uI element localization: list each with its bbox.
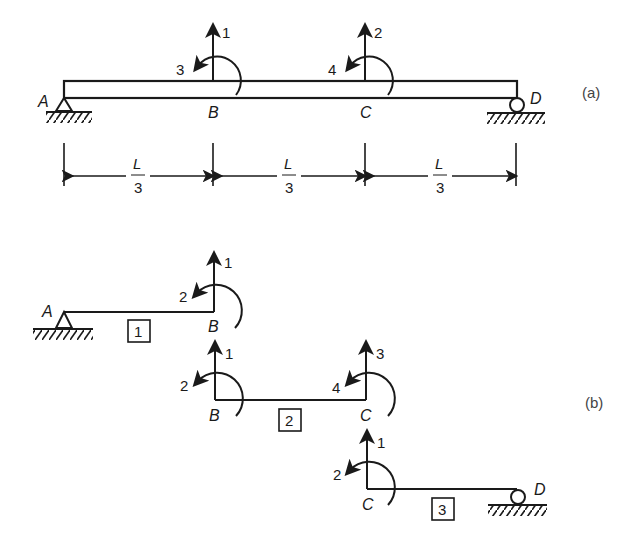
el2-node-right: C xyxy=(360,407,372,424)
el2-right-moment-label: 4 xyxy=(332,379,340,396)
moment-arrow-icon xyxy=(198,373,243,416)
dof-c xyxy=(350,30,393,95)
el3-node-right: D xyxy=(534,481,546,498)
node-label-b: B xyxy=(208,104,219,121)
dim-2-numerator: L xyxy=(284,155,292,172)
dof-c-force-label: 2 xyxy=(374,24,382,41)
dim-1-denominator: 3 xyxy=(134,179,142,196)
el1-node-right: B xyxy=(208,318,219,335)
element-id-3: 3 xyxy=(438,501,446,518)
el3-force-label: 1 xyxy=(377,434,385,451)
moment-arrow-icon xyxy=(350,373,395,416)
dof-c-moment-label: 4 xyxy=(328,61,336,78)
dim-3-numerator: L xyxy=(435,155,443,172)
figure-a: A D 1 3 B 2 4 C (a) xyxy=(37,24,600,196)
el2-left-force-label: 1 xyxy=(225,345,233,362)
beam xyxy=(64,81,517,98)
node-label-d: D xyxy=(530,90,542,107)
el3-node-left: C xyxy=(362,496,374,513)
node-label-a: A xyxy=(37,93,49,110)
beam-diagram: A D 1 3 B 2 4 C (a) xyxy=(0,0,635,539)
dof-b-force-label: 1 xyxy=(222,24,230,41)
dim-3-denominator: 3 xyxy=(436,179,444,196)
node-label-c: C xyxy=(360,104,372,121)
dof-b-moment-label: 3 xyxy=(176,61,184,78)
dof-b xyxy=(198,30,241,95)
el2-right-force-label: 3 xyxy=(376,345,384,362)
figure-b-label: (b) xyxy=(585,394,603,411)
moment-arrow-icon xyxy=(197,285,242,328)
dim-1-numerator: L xyxy=(133,155,141,172)
dim-2-denominator: 3 xyxy=(285,179,293,196)
el2-left-moment-label: 2 xyxy=(180,377,188,394)
moment-arrow-icon xyxy=(198,57,241,95)
el1-force-label: 1 xyxy=(224,254,232,271)
roller-support-d xyxy=(511,490,525,504)
element-id-1: 1 xyxy=(134,323,142,340)
el1-moment-label: 2 xyxy=(179,288,187,305)
moment-arrow-icon xyxy=(350,57,393,95)
pin-support-a xyxy=(56,312,72,328)
el2-node-left: B xyxy=(209,407,220,424)
el3-moment-label: 2 xyxy=(333,466,341,483)
figure-b: A B 1 2 1 B C 1 2 3 4 2 (b) xyxy=(33,254,603,520)
element-id-2: 2 xyxy=(285,412,293,429)
el1-node-left: A xyxy=(41,303,53,320)
figure-a-label: (a) xyxy=(582,84,600,101)
pin-support-a xyxy=(46,98,92,123)
